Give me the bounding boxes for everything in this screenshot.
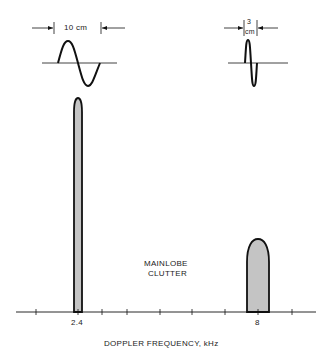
right-wave-group <box>224 20 288 86</box>
wavelength-label-10cm: 10 cm <box>64 23 87 32</box>
peak-2.4khz <box>74 98 82 312</box>
annotation-mainlobe: MAINLOBE <box>144 259 188 268</box>
wavelength-label-cm: cm <box>245 28 255 35</box>
tick-label-8: 8 <box>255 318 260 327</box>
x-axis-label: DOPPLER FREQUENCY, kHz <box>104 339 218 348</box>
peak-8khz <box>247 239 269 312</box>
doppler-diagram <box>0 0 330 354</box>
sine-wave-10cm <box>58 41 100 86</box>
annotation-clutter: CLUTTER <box>148 269 187 278</box>
wavelength-label-3: 3 <box>247 18 251 25</box>
tick-label-2.4: 2.4 <box>71 318 83 327</box>
